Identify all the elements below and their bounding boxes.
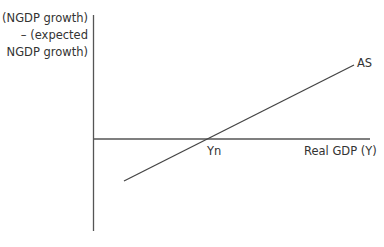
diagram-canvas	[0, 0, 384, 247]
x-axis-label: Real GDP (Y)	[304, 144, 377, 158]
as-curve	[124, 65, 354, 181]
natural-output-label: Yn	[207, 144, 221, 158]
as-curve-label: AS	[357, 56, 372, 70]
